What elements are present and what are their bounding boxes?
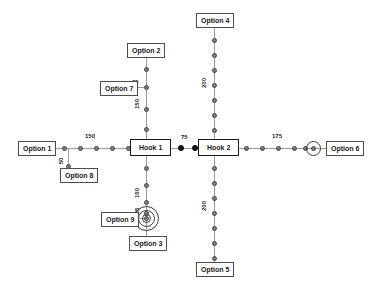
label-option8[interactable]: Option 8 <box>60 168 98 183</box>
hook2-up-node[interactable] <box>212 38 217 43</box>
hook2-up-node[interactable] <box>212 68 217 73</box>
option3-center-node[interactable] <box>144 216 149 221</box>
hook2-up-node[interactable] <box>212 83 217 88</box>
hook1-up-node[interactable] <box>144 127 149 132</box>
hook1-up-node[interactable] <box>144 67 149 72</box>
trunk-node[interactable] <box>62 146 67 151</box>
label-hook1[interactable]: Hook 1 <box>130 139 171 156</box>
hook2-down-node[interactable] <box>212 196 217 201</box>
hook2-up-node[interactable] <box>212 128 217 133</box>
hook1-down-node[interactable] <box>144 166 149 171</box>
hook1-up-node[interactable] <box>144 107 149 112</box>
hook1-down-node[interactable] <box>144 200 149 205</box>
trunk-node[interactable] <box>94 146 99 151</box>
trunk-node[interactable] <box>110 146 115 151</box>
dimension-hook2-up: 200 <box>201 78 207 88</box>
dimension-hook1-up: 150 <box>134 99 140 109</box>
hook2-down-node[interactable] <box>212 211 217 216</box>
dimension-right-main: 175 <box>272 133 282 139</box>
diagram-canvas: 150 50 75 175 25 150 150 25 200 200 Opti… <box>0 0 372 290</box>
label-option4[interactable]: Option 4 <box>196 13 234 28</box>
label-option5[interactable]: Option 5 <box>196 262 234 277</box>
label-hook2[interactable]: Hook 2 <box>198 139 239 156</box>
hook2-down-node[interactable] <box>212 181 217 186</box>
hook2-up-node[interactable] <box>212 53 217 58</box>
hook1-down-node[interactable] <box>144 183 149 188</box>
label-option7[interactable]: Option 7 <box>100 81 138 96</box>
label-option3[interactable]: Option 3 <box>129 236 167 251</box>
label-option1[interactable]: Option 1 <box>18 141 56 156</box>
option6-terminator-node[interactable] <box>311 146 316 151</box>
hook2-down-node[interactable] <box>212 166 217 171</box>
trunk-node[interactable] <box>276 146 281 151</box>
hook1-up-node[interactable] <box>144 85 149 90</box>
trunk-node[interactable] <box>244 146 249 151</box>
trunk-node[interactable] <box>260 146 265 151</box>
hook2-down-node[interactable] <box>212 226 217 231</box>
dimension-hooks-gap: 75 <box>181 134 188 140</box>
dimension-left-main: 150 <box>85 133 95 139</box>
label-option6[interactable]: Option 6 <box>326 141 364 156</box>
hook2-down-node[interactable] <box>212 241 217 246</box>
dimension-option8: 50 <box>58 158 64 165</box>
hook-gap-node[interactable] <box>178 145 184 151</box>
hook2-up-node[interactable] <box>212 98 217 103</box>
label-option9[interactable]: Option 9 <box>101 212 139 227</box>
trunk-node[interactable] <box>78 146 83 151</box>
dimension-hook1-down: 150 <box>134 188 140 198</box>
hook2-down-node[interactable] <box>212 256 217 261</box>
hook2-up-node[interactable] <box>212 113 217 118</box>
dimension-hook2-down: 200 <box>201 201 207 211</box>
trunk-node[interactable] <box>292 146 297 151</box>
label-option2[interactable]: Option 2 <box>127 43 165 58</box>
